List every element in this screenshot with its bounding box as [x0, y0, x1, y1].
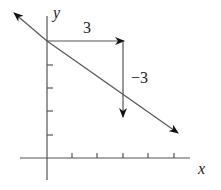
- slope-diagram: y x 3 −3: [0, 0, 221, 190]
- x-axis-label: x: [197, 160, 205, 177]
- y-axis-label: y: [51, 4, 61, 22]
- y-axis-ticks: [47, 65, 53, 135]
- slope-line-lower: [47, 41, 178, 133]
- x-axis-ticks: [72, 153, 174, 158]
- slope-line: [14, 13, 47, 41]
- rise-label: −3: [131, 69, 148, 86]
- run-label: 3: [83, 19, 91, 36]
